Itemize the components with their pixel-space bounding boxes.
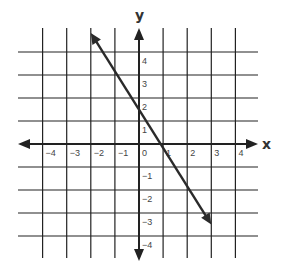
- x-tick-label: −3: [70, 148, 80, 158]
- y-tick-label: 2: [142, 102, 147, 112]
- y-axis-down-arrow: [134, 249, 144, 261]
- x-tick-label: −2: [94, 148, 104, 158]
- x-tick-label: 0: [142, 148, 147, 158]
- y-axis-up-arrow: [134, 28, 144, 40]
- x-tick-label: −4: [46, 148, 56, 158]
- x-axis-label: x: [262, 136, 271, 152]
- coordinate-plane: −4−3−2−1012344321−1−2−3−4 x y: [0, 0, 285, 272]
- y-tick-label: −3: [142, 217, 152, 227]
- y-tick-label: −2: [142, 194, 152, 204]
- y-tick-label: −4: [142, 240, 152, 250]
- x-axis-left-arrow: [18, 139, 30, 149]
- y-axis-label: y: [135, 7, 144, 23]
- y-tick-label: 1: [142, 125, 147, 135]
- x-tick-label: −1: [118, 148, 128, 158]
- x-tick-label: 4: [238, 148, 243, 158]
- axes: [18, 28, 258, 261]
- y-tick-label: 4: [142, 56, 147, 66]
- x-tick-label: 2: [190, 148, 195, 158]
- x-axis-right-arrow: [246, 139, 258, 149]
- y-tick-label: −1: [142, 171, 152, 181]
- x-tick-label: 3: [214, 148, 219, 158]
- y-tick-label: 3: [142, 79, 147, 89]
- tick-labels: −4−3−2−1012344321−1−2−3−4: [46, 56, 244, 250]
